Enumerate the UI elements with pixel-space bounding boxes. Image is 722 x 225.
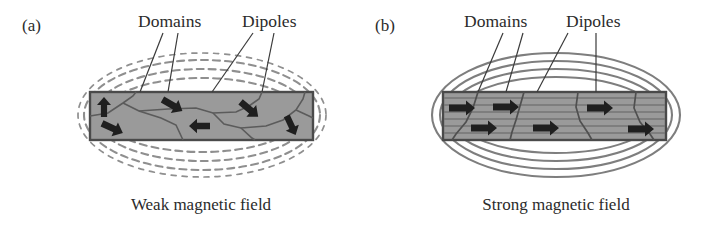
panel-a-domains-label: Domains [138,11,201,31]
panel-a-label: (a) [22,16,41,35]
panel-b-label: (b) [375,16,395,35]
panel-b-domains-label: Domains [464,11,527,31]
panel-a-dipoles-label: Dipoles [242,11,297,31]
panel-b-caption: Strong magnetic field [482,195,630,214]
panel-b-dipoles-label: Dipoles [566,11,621,31]
magnetic-domains-figure: (a) Domains Dipoles Weak magnetic field [0,0,722,225]
panel-b-bar [443,92,666,140]
panel-a-bar [90,92,313,140]
panel-a-caption: Weak magnetic field [131,195,272,214]
panel-a-bar-body [90,92,313,140]
